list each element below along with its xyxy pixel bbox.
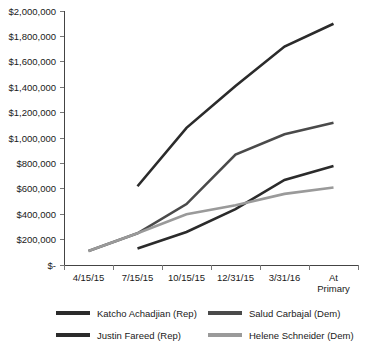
y-tick-label: $400,000 (16, 209, 56, 220)
series-line (138, 24, 334, 187)
x-tick-label: 12/31/15 (217, 272, 254, 283)
y-tick-label: $800,000 (16, 158, 56, 169)
chart-canvas: $-$200,000$400,000$600,000$800,000$1,000… (0, 0, 368, 300)
series-line (89, 123, 334, 251)
legend-label: Justin Fareed (Rep) (97, 330, 181, 341)
legend-item: Justin Fareed (Rep) (56, 324, 208, 346)
legend-swatch (56, 311, 90, 315)
y-tick-label: $1,800,000 (8, 31, 56, 42)
chart-legend: Katcho Achadjian (Rep)Salud Carbajal (De… (0, 300, 368, 346)
x-tick-label: 4/15/15 (73, 272, 105, 283)
series-line (138, 166, 334, 249)
legend-label: Katcho Achadjian (Rep) (97, 308, 197, 319)
legend-item: Katcho Achadjian (Rep) (56, 302, 208, 324)
y-tick-label: $1,400,000 (8, 82, 56, 93)
x-axis-labels: 4/15/157/15/1510/15/1512/31/153/31/16AtP… (73, 272, 350, 294)
y-axis-ticks (60, 11, 64, 265)
y-tick-label: $200,000 (16, 234, 56, 245)
y-axis-labels: $-$200,000$400,000$600,000$800,000$1,000… (8, 6, 56, 271)
series-lines (89, 24, 334, 251)
legend-grid: Katcho Achadjian (Rep)Salud Carbajal (De… (0, 300, 368, 346)
legend-item: Helene Schneider (Dem) (208, 324, 368, 346)
x-tick-label: AtPrimary (317, 272, 350, 294)
legend-swatch (208, 311, 242, 315)
legend-label: Helene Schneider (Dem) (249, 330, 354, 341)
legend-item: Salud Carbajal (Dem) (208, 302, 368, 324)
x-tick-label: 3/31/16 (269, 272, 301, 283)
y-tick-label: $600,000 (16, 183, 56, 194)
x-tick-label: 10/15/15 (168, 272, 205, 283)
legend-swatch (56, 333, 90, 337)
y-tick-label: $- (48, 260, 56, 271)
legend-label: Salud Carbajal (Dem) (249, 308, 340, 319)
y-tick-label: $1,000,000 (8, 133, 56, 144)
line-chart: $-$200,000$400,000$600,000$800,000$1,000… (0, 0, 368, 346)
plot-area: $-$200,000$400,000$600,000$800,000$1,000… (0, 0, 368, 300)
x-tick-label: 7/15/15 (122, 272, 154, 283)
legend-swatch (208, 333, 242, 337)
x-axis-ticks (64, 265, 358, 270)
y-tick-label: $2,000,000 (8, 6, 56, 17)
y-tick-label: $1,200,000 (8, 107, 56, 118)
y-tick-label: $1,600,000 (8, 56, 56, 67)
